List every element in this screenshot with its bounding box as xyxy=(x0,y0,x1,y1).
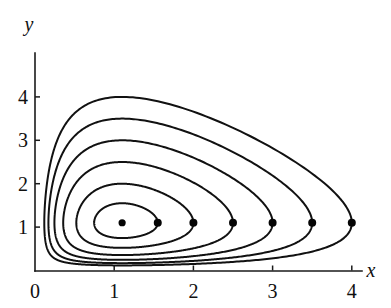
y-tick-label-1: 1 xyxy=(18,216,28,238)
phase-portrait-figure: 01234 1234 x y xyxy=(0,0,391,308)
y-tick-label-2: 2 xyxy=(18,173,28,195)
orbit-1 xyxy=(94,203,158,238)
x-tick-marks xyxy=(114,266,352,271)
x-tick-label-1: 1 xyxy=(109,280,119,302)
orbit-start-marker-4 xyxy=(269,219,277,227)
x-tick-label-2: 2 xyxy=(188,280,198,302)
orbit-start-marker-6 xyxy=(348,219,356,227)
orbit-curves-group xyxy=(44,97,352,266)
y-tick-labels: 1234 xyxy=(18,86,28,238)
orbit-6 xyxy=(44,97,352,266)
y-tick-label-3: 3 xyxy=(18,129,28,151)
x-tick-label-4: 4 xyxy=(347,280,357,302)
x-tick-label-0: 0 xyxy=(30,280,40,302)
orbit-3 xyxy=(63,162,233,255)
orbit-start-marker-5 xyxy=(308,219,316,227)
orbit-2 xyxy=(76,184,193,248)
x-tick-label-3: 3 xyxy=(268,280,278,302)
orbit-start-marker-1 xyxy=(154,219,162,227)
x-tick-labels: 01234 xyxy=(30,280,357,302)
phase-portrait-svg: 01234 1234 x y xyxy=(0,0,391,308)
y-tick-label-4: 4 xyxy=(18,86,28,108)
orbit-start-marker-3 xyxy=(229,219,237,227)
y-axis-label: y xyxy=(23,13,34,36)
orbit-start-marker-2 xyxy=(189,219,197,227)
equilibrium-and-orbit-markers xyxy=(119,219,356,227)
axes-group xyxy=(35,53,362,271)
equilibrium-point-marker xyxy=(119,219,126,226)
x-axis-label: x xyxy=(366,259,376,281)
